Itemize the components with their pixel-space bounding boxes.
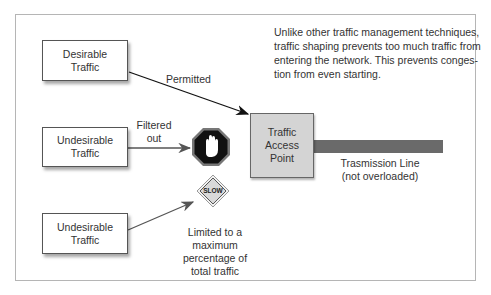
permitted-label: Permitted	[166, 73, 211, 86]
stop-hand-icon	[192, 128, 230, 166]
filtered-label: Filtered out	[134, 119, 174, 145]
transmission-line	[314, 140, 443, 153]
source-label: Traffic	[57, 234, 113, 247]
transmission-line-label: Trasmission Line (not overloaded)	[330, 157, 430, 183]
undesirable-traffic-box-filtered: UndesirableTraffic	[42, 127, 128, 167]
limited-label: Limited to a maximum percentage of total…	[180, 226, 250, 278]
undesirable-traffic-box-limited: UndesirableTraffic	[42, 213, 128, 254]
source-label: Desirable	[63, 48, 107, 61]
description-text: Unlike other traffic management techniqu…	[274, 25, 484, 81]
source-label: Traffic	[63, 61, 107, 74]
slow-sign-text: SLOW	[200, 186, 226, 195]
desirable-traffic-box: DesirableTraffic	[42, 40, 128, 81]
source-label: Undesirable	[57, 221, 113, 234]
source-label: Undesirable	[57, 134, 113, 147]
source-label: Traffic	[57, 147, 113, 160]
traffic-access-point-box: Traffic Access Point	[250, 113, 314, 178]
